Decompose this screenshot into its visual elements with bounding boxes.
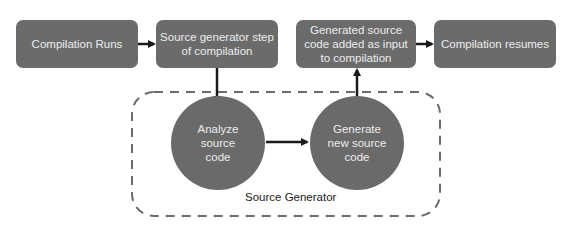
step-label: Generated source code added as input to … <box>304 23 408 65</box>
node-label: Generate new source code <box>328 122 387 164</box>
step-label: Compilation Runs <box>32 37 123 51</box>
step-label: Source generator step of compilation <box>160 30 274 58</box>
step-label: Compilation resumes <box>441 37 549 51</box>
step-compilation-resumes: Compilation resumes <box>434 20 556 68</box>
node-analyze-source-code: Analyze source code <box>171 96 265 190</box>
node-label: Analyze source code <box>198 122 239 164</box>
step-source-generator: Source generator step of compilation <box>156 20 278 68</box>
source-generator-title: Source Generator <box>245 191 336 203</box>
step-generated-source-added: Generated source code added as input to … <box>296 20 416 68</box>
node-generate-new-source-code: Generate new source code <box>310 96 404 190</box>
step-compilation-runs: Compilation Runs <box>16 20 138 68</box>
